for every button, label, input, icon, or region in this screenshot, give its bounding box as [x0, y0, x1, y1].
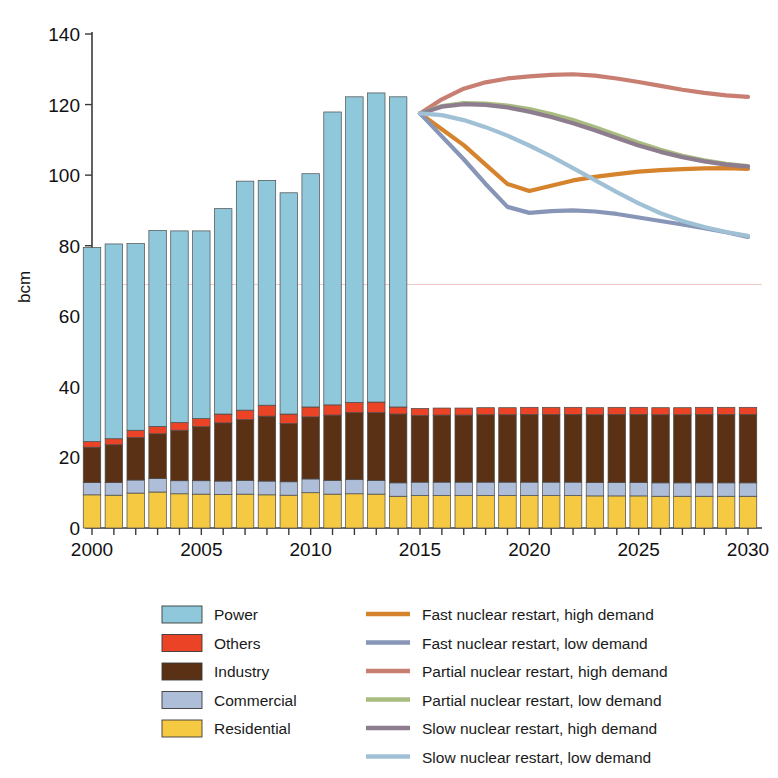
bar-segment-commercial	[586, 482, 603, 495]
stacked-bar	[499, 408, 516, 528]
bar-segment-industry	[608, 414, 625, 482]
stacked-bar	[302, 174, 319, 528]
bar-segment-others	[586, 408, 603, 415]
projection-line	[420, 74, 748, 113]
bar-segment-commercial	[346, 480, 363, 494]
bar-segment-residential	[83, 495, 100, 528]
y-axis-tick-label: 20	[59, 447, 80, 468]
bar-segment-others	[630, 407, 647, 414]
bar-segment-commercial	[564, 482, 581, 495]
bar-segment-residential	[455, 496, 472, 528]
bar-segment-residential	[477, 496, 494, 528]
bar-segment-industry	[696, 414, 713, 482]
bar-segment-residential	[127, 493, 144, 528]
bar-segment-commercial	[717, 483, 734, 496]
legend-label-scenario: Fast nuclear restart, low demand	[422, 635, 648, 652]
bar-segment-industry	[455, 415, 472, 482]
bar-segment-industry	[674, 415, 691, 483]
bar-segment-power	[258, 180, 275, 405]
bar-segment-industry	[302, 417, 319, 479]
stacked-bar	[127, 244, 144, 528]
bar-segment-others	[499, 408, 516, 415]
bar-segment-residential	[389, 496, 406, 528]
bar-segment-residential	[236, 494, 253, 528]
bar-segment-industry	[739, 414, 756, 482]
bar-segment-commercial	[608, 482, 625, 495]
bar-segment-others	[214, 414, 231, 423]
stacked-bar	[717, 407, 734, 528]
bar-segment-others	[455, 408, 472, 415]
lines-layer	[420, 74, 748, 237]
stacked-bar	[630, 407, 647, 528]
y-axis-tick-label: 60	[59, 306, 80, 327]
bar-segment-residential	[280, 495, 297, 528]
x-axis-tick-label: 2000	[71, 539, 113, 560]
chart-canvas: 020406080100120140bcm2000200520102015202…	[0, 0, 778, 778]
bar-segment-others	[652, 408, 669, 415]
bar-segment-commercial	[499, 482, 516, 495]
legend-label-residential: Residential	[214, 720, 291, 737]
bar-segment-industry	[389, 414, 406, 483]
x-axis-tick-label: 2030	[727, 539, 769, 560]
bar-segment-commercial	[542, 482, 559, 495]
bar-segment-others	[717, 407, 734, 414]
stacked-bar	[280, 193, 297, 528]
bar-segment-others	[739, 407, 756, 414]
projection-line	[420, 103, 748, 166]
bars-layer	[83, 93, 756, 528]
bar-segment-industry	[171, 430, 188, 480]
bar-segment-residential	[193, 494, 210, 528]
bar-segment-residential	[630, 496, 647, 528]
stacked-bar	[346, 97, 363, 528]
bar-segment-power	[346, 97, 363, 403]
bar-segment-others	[302, 407, 319, 417]
stacked-bar	[389, 97, 406, 528]
bar-segment-residential	[411, 496, 428, 528]
bar-segment-residential	[258, 495, 275, 528]
bar-segment-commercial	[455, 482, 472, 495]
x-axis-tick-label: 2015	[399, 539, 441, 560]
bar-segment-industry	[83, 447, 100, 482]
stacked-bar	[739, 407, 756, 528]
bar-segment-residential	[717, 496, 734, 528]
legend-layer: PowerOthersIndustryCommercialResidential…	[162, 606, 668, 766]
bar-segment-residential	[739, 496, 756, 528]
bar-segment-commercial	[127, 480, 144, 493]
stacked-bar	[542, 407, 559, 528]
bar-segment-commercial	[193, 481, 210, 494]
bar-segment-power	[236, 181, 253, 410]
bar-segment-others	[411, 408, 428, 415]
y-axis-tick-label: 100	[48, 165, 80, 186]
bar-segment-industry	[521, 414, 538, 482]
bar-segment-others	[674, 408, 691, 415]
stacked-bar	[696, 407, 713, 528]
y-axis-title: bcm	[15, 271, 34, 303]
bar-segment-others	[346, 402, 363, 412]
stacked-bar	[652, 408, 669, 528]
bar-segment-residential	[324, 494, 341, 528]
bar-segment-others	[696, 407, 713, 414]
bar-segment-commercial	[630, 482, 647, 495]
bar-segment-others	[236, 410, 253, 420]
bar-segment-commercial	[521, 482, 538, 495]
stacked-bar	[674, 408, 691, 528]
bar-segment-commercial	[149, 479, 166, 492]
bar-segment-industry	[324, 415, 341, 480]
y-axis-tick-label: 0	[69, 518, 80, 539]
legend-swatch-commercial	[162, 692, 202, 709]
bar-segment-commercial	[258, 481, 275, 495]
bar-segment-commercial	[477, 482, 494, 495]
bar-segment-others	[171, 423, 188, 431]
stacked-bar	[411, 408, 428, 528]
stacked-bar	[586, 408, 603, 528]
bar-segment-industry	[717, 414, 734, 482]
stacked-bar	[477, 408, 494, 528]
bar-segment-residential	[171, 494, 188, 528]
x-axis-tick-label: 2005	[180, 539, 222, 560]
bar-segment-commercial	[171, 481, 188, 494]
stacked-bar-projection-chart: 020406080100120140bcm2000200520102015202…	[0, 0, 778, 778]
bar-segment-industry	[477, 415, 494, 482]
bar-segment-industry	[433, 415, 450, 482]
stacked-bar	[214, 209, 231, 528]
bar-segment-industry	[346, 413, 363, 480]
